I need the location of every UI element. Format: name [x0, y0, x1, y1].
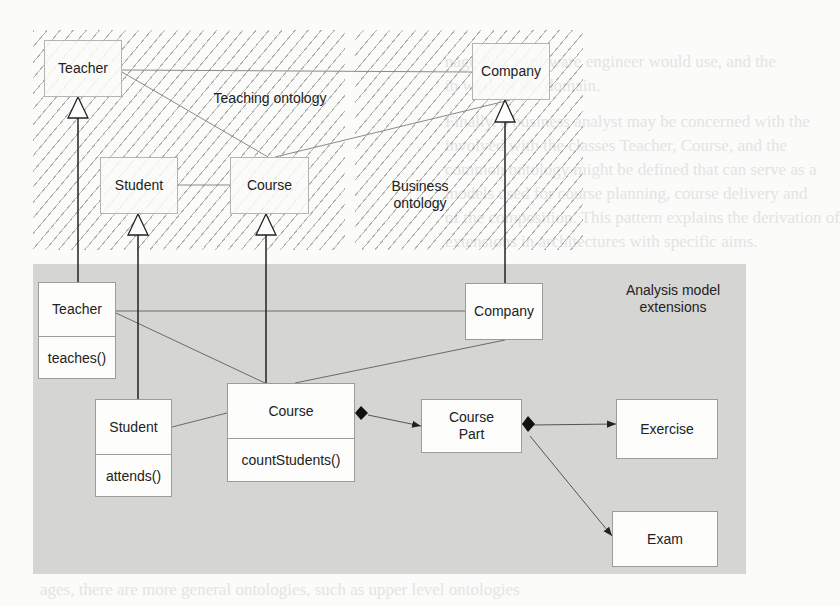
generalization-arrow-icon: [256, 214, 276, 235]
class-name: Student: [101, 158, 177, 213]
analysis-exam-class[interactable]: Exam: [612, 511, 718, 567]
ontology-teacher-class[interactable]: Teacher: [44, 40, 122, 97]
class-name: Teacher: [45, 41, 121, 96]
analysis-model-label: Analysis model extensions: [608, 282, 738, 316]
class-name: Student: [96, 400, 171, 454]
analysis-course-class[interactable]: Course countStudents(): [227, 383, 355, 482]
analysis-label-line2: extensions: [608, 299, 738, 316]
teaching-ontology-label: Teaching ontology: [200, 90, 340, 107]
class-name: Company: [466, 284, 542, 339]
class-name: Exercise: [617, 400, 717, 458]
class-name: Teacher: [39, 283, 115, 336]
generalization-arrow-icon: [68, 97, 88, 118]
ontology-student-class[interactable]: Student: [100, 157, 178, 214]
analysis-student-class[interactable]: Student attends(): [95, 399, 172, 497]
class-operation: countStudents(): [228, 438, 354, 481]
analysis-label-line1: Analysis model: [608, 282, 738, 299]
business-label-line1: Business: [385, 178, 455, 195]
business-label-line2: ontology: [385, 195, 455, 212]
class-name: Course Part: [422, 400, 521, 452]
class-name-line1: Course: [449, 409, 494, 426]
analysis-course-part-class[interactable]: Course Part: [421, 399, 522, 453]
ontology-course-class[interactable]: Course: [230, 157, 309, 214]
class-operation: attends(): [96, 454, 171, 496]
analysis-exercise-class[interactable]: Exercise: [616, 399, 718, 459]
ontology-company-class[interactable]: Company: [472, 43, 550, 100]
class-name: Exam: [613, 512, 717, 566]
class-name: Course: [228, 384, 354, 438]
class-operation: teaches(): [39, 336, 115, 378]
business-ontology-label: Business ontology: [385, 178, 455, 212]
analysis-company-class[interactable]: Company: [465, 283, 543, 340]
class-name: Company: [473, 44, 549, 99]
generalization-arrow-icon: [128, 214, 148, 235]
class-name: Course: [231, 158, 308, 213]
composition-diamond-icon: [522, 416, 535, 432]
analysis-teacher-class[interactable]: Teacher teaches(): [38, 282, 116, 379]
class-name-line2: Part: [459, 426, 485, 443]
composition-diamond-icon: [355, 406, 368, 420]
